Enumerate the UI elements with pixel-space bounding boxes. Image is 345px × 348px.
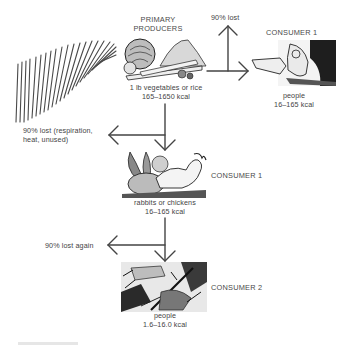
loss-again-label: 90% lost again (45, 241, 94, 250)
primary-producers-energy: 165–1650 kcal (108, 92, 224, 101)
consumer2-people-desc: people (110, 311, 220, 320)
title-line-1: PRIMARY (128, 15, 188, 24)
consumer1-people-energy: 16–165 kcal (252, 100, 336, 109)
rabbit-chicken-icon (120, 150, 210, 200)
consumer1-animals-title: CONSUMER 1 (211, 171, 262, 180)
loss-top-label: 90% lost (211, 13, 239, 22)
consumer1-animals-desc: rabbits or chickens (110, 198, 220, 207)
title-line-2: PRODUCERS (128, 24, 188, 33)
people-eating-meat-icon (121, 262, 207, 312)
consumer2-people-title: CONSUMER 2 (211, 283, 262, 292)
primary-producers-desc: 1 lb vegetables or rice (108, 83, 224, 92)
cropped-caption (18, 342, 78, 345)
consumer2-people-energy: 1.6–16.0 kcal (110, 320, 220, 329)
consumer1-animals-energy: 16–165 kcal (110, 207, 220, 216)
loss-respiration-line-2: heat, unused) (23, 135, 93, 144)
person-eating-icon (250, 38, 338, 88)
consumer1-people-desc: people (252, 91, 336, 100)
loss-respiration-label: 90% lost (respiration, heat, unused) (23, 126, 93, 144)
vegetables-icon (120, 36, 208, 82)
loss-respiration-line-1: 90% lost (respiration, (23, 126, 93, 135)
sun-rays-icon (12, 34, 117, 126)
consumer1-people-title: CONSUMER 1 (266, 28, 317, 37)
primary-producers-title: PRIMARY PRODUCERS (128, 15, 188, 33)
